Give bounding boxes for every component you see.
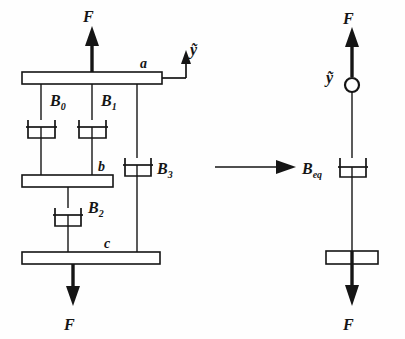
- damper-equivalence-figure: F a ỹ B0: [0, 0, 405, 339]
- bar-a-label: a: [140, 56, 147, 71]
- eq-bottom-force-label: F: [342, 316, 354, 333]
- damper-B2-branch: [53, 187, 83, 252]
- damper-B2-label: B2: [87, 199, 104, 219]
- eq-top-force-arrow: [345, 27, 359, 77]
- bar-b-label: b: [98, 159, 105, 174]
- damper-B1-label: B1: [100, 92, 117, 112]
- bottom-force-arrow: [66, 264, 80, 306]
- bottom-force-label: F: [63, 316, 75, 333]
- right-diagram: F ỹ Beq F: [301, 10, 378, 333]
- velocity-indicator-left: [162, 50, 191, 78]
- equivalence-arrow: [215, 160, 296, 174]
- bar-a: [22, 72, 162, 84]
- damper-Beq: [338, 158, 368, 177]
- top-force-arrow: [85, 26, 99, 72]
- left-diagram: F a ỹ B0: [22, 8, 198, 333]
- figure-canvas: F a ỹ B0: [0, 0, 405, 339]
- velocity-label-right: ỹ: [324, 69, 334, 87]
- damper-B0-label: B0: [49, 92, 66, 112]
- top-force-label: F: [82, 8, 94, 25]
- damper-B3-label: B3: [156, 160, 173, 180]
- eq-top-force-label: F: [342, 10, 354, 27]
- velocity-label-left: ỹ: [188, 41, 198, 59]
- bar-c: [22, 252, 160, 264]
- bar-c-label: c: [104, 236, 111, 251]
- damper-Beq-label: Beq: [301, 160, 322, 180]
- velocity-node-circle: [345, 78, 359, 92]
- bar-b: [22, 175, 113, 187]
- damper-B3-branch: [123, 84, 153, 252]
